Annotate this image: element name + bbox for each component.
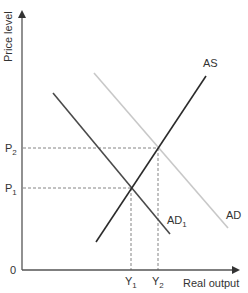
as-curve	[96, 76, 206, 242]
origin-label: 0	[10, 264, 16, 276]
y1-label: Y1	[125, 275, 137, 290]
p2-label: P2	[5, 142, 17, 157]
guide-lines	[23, 148, 158, 270]
ad-curve	[94, 73, 228, 228]
ad-label: AD	[226, 209, 241, 221]
ad1-curve	[53, 93, 170, 234]
as-label: AS	[203, 57, 218, 69]
as-ad-diagram: Price level Real output 0 P2 P1 Y1 Y2 AS…	[0, 0, 248, 293]
x-axis-label: Real output	[183, 277, 239, 289]
y-axis-label: Price level	[2, 11, 14, 62]
ad1-label: AD1	[167, 214, 187, 229]
y2-label: Y2	[152, 275, 164, 290]
p1-label: P1	[5, 182, 17, 197]
